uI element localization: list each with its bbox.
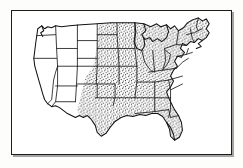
figure-root (0, 0, 243, 168)
map-frame (11, 10, 232, 155)
us-map-svg (12, 11, 231, 154)
